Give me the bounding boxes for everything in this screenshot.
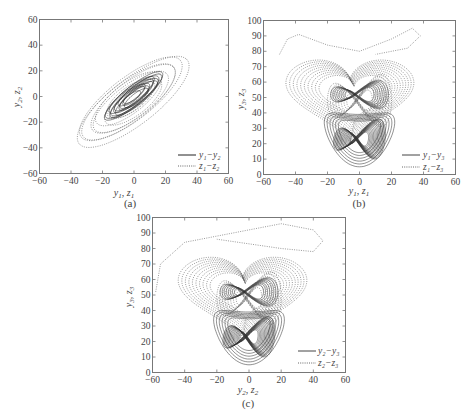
svg-text:−60: −60 xyxy=(23,169,38,179)
svg-text:−20: −20 xyxy=(320,177,335,187)
panel-a: −60−40−200204060−60−40−200204060 y₁−y₂ z… xyxy=(0,0,240,210)
svg-text:30: 30 xyxy=(141,321,151,331)
svg-text:−20: −20 xyxy=(23,117,38,127)
plot-b-ticks: −60−40−2002040600102030405060708090100 xyxy=(247,16,460,187)
panel-b: −60−40−2002040600102030405060708090100 y… xyxy=(235,0,473,212)
legend-b-item-1: y₁−y₃ xyxy=(422,150,444,160)
legend-c: y₂−y₃ z₂−z₃ xyxy=(298,346,339,368)
svg-text:40: 40 xyxy=(141,306,151,316)
svg-text:10: 10 xyxy=(141,352,151,362)
plot-c-traces xyxy=(156,224,323,365)
svg-text:60: 60 xyxy=(28,15,38,25)
plot-b-traces xyxy=(280,28,421,167)
svg-text:60: 60 xyxy=(341,375,351,385)
svg-text:70: 70 xyxy=(252,62,262,72)
legend-a-item-1: y₁−y₂ xyxy=(198,150,221,160)
svg-text:0: 0 xyxy=(132,176,137,186)
ylabel-a: y2, z2 xyxy=(11,86,24,108)
svg-text:20: 20 xyxy=(276,375,286,385)
svg-text:40: 40 xyxy=(192,176,202,186)
svg-text:30: 30 xyxy=(252,123,262,133)
svg-text:50: 50 xyxy=(252,93,262,103)
svg-text:50: 50 xyxy=(141,290,151,300)
svg-text:90: 90 xyxy=(141,228,151,238)
svg-text:60: 60 xyxy=(141,275,151,285)
svg-text:40: 40 xyxy=(419,177,429,187)
legend-c-item-1: y₂−y₃ xyxy=(317,346,339,356)
svg-text:−40: −40 xyxy=(177,375,192,385)
svg-text:−40: −40 xyxy=(64,176,79,186)
svg-text:20: 20 xyxy=(252,139,262,149)
svg-text:20: 20 xyxy=(141,337,151,347)
svg-text:60: 60 xyxy=(224,176,234,186)
svg-text:40: 40 xyxy=(28,40,38,50)
plot-a: −60−40−200204060−60−40−200204060 y₁−y₂ z… xyxy=(0,0,240,210)
legend-b: y₁−y₃ z₁−z₃ xyxy=(402,150,444,172)
plot-b: −60−40−2002040600102030405060708090100 y… xyxy=(235,0,473,212)
svg-text:70: 70 xyxy=(141,259,151,269)
svg-text:20: 20 xyxy=(161,176,171,186)
svg-text:−20: −20 xyxy=(209,375,224,385)
svg-text:40: 40 xyxy=(309,375,319,385)
plot-c: −60−40−2002040600102030405060708090100 y… xyxy=(120,205,360,412)
ylabel-c: y3, z3 xyxy=(123,286,136,308)
legend-b-item-2: z₁−z₃ xyxy=(422,162,443,172)
legend-c-item-2: z₂−z₃ xyxy=(317,358,338,368)
legend-a: y₁−y₂ z₁−z₂ xyxy=(178,150,221,171)
legend-a-item-2: z₁−z₂ xyxy=(198,161,220,171)
caption-c: (c) xyxy=(242,397,255,410)
svg-text:0: 0 xyxy=(33,92,38,102)
svg-text:80: 80 xyxy=(141,244,151,254)
svg-text:10: 10 xyxy=(252,154,262,164)
svg-text:90: 90 xyxy=(252,31,262,41)
svg-text:20: 20 xyxy=(28,66,38,76)
svg-text:0: 0 xyxy=(257,170,262,180)
svg-text:60: 60 xyxy=(252,77,262,87)
plot-a-traces xyxy=(77,56,189,147)
svg-text:100: 100 xyxy=(247,16,262,26)
svg-text:−20: −20 xyxy=(95,176,110,186)
svg-text:60: 60 xyxy=(451,177,461,187)
svg-text:80: 80 xyxy=(252,46,262,56)
svg-text:−40: −40 xyxy=(23,143,38,153)
svg-text:0: 0 xyxy=(247,375,252,385)
ylabel-b: y3, z3 xyxy=(235,88,248,110)
svg-text:100: 100 xyxy=(136,213,151,223)
svg-text:0: 0 xyxy=(146,368,151,378)
xlabel-c: y2, z2 xyxy=(237,384,259,397)
panel-c: −60−40−2002040600102030405060708090100 y… xyxy=(120,205,360,412)
svg-text:40: 40 xyxy=(252,108,262,118)
svg-text:−40: −40 xyxy=(288,177,303,187)
svg-text:20: 20 xyxy=(387,177,397,187)
